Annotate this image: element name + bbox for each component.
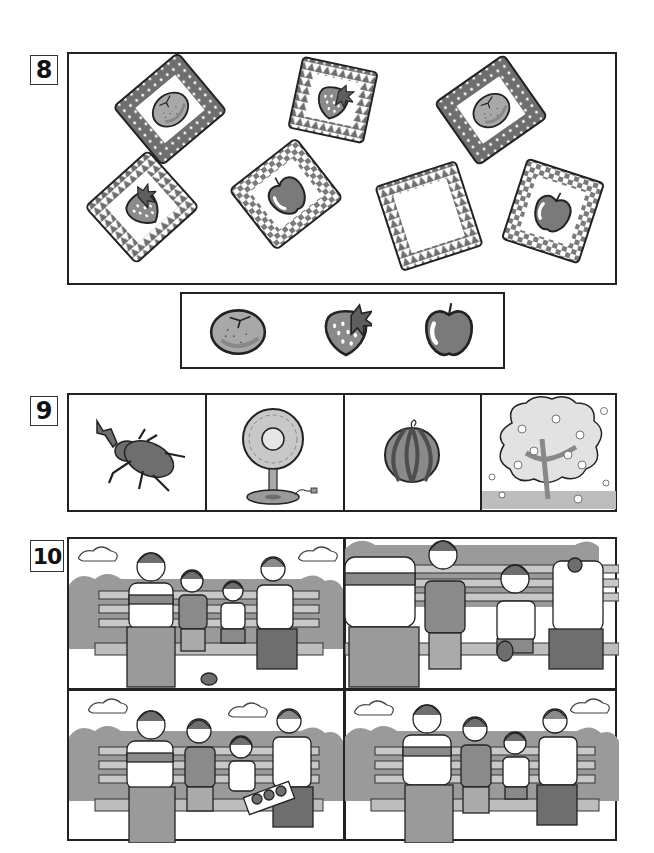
tangerine-icon: [211, 310, 265, 353]
card-tangerine-dots[interactable]: [435, 55, 547, 165]
watermelon-icon: [345, 395, 480, 509]
story-panel-top-right[interactable]: [345, 539, 619, 688]
season-items-row: [67, 393, 617, 512]
cherry-blossom-tree-icon: [482, 395, 616, 509]
item-cell-cherry-blossom[interactable]: [482, 395, 619, 510]
card-apple-checker[interactable]: [230, 138, 343, 250]
fruit-options-strip: [180, 292, 505, 369]
card-apple-checker[interactable]: [502, 159, 604, 264]
card-arrangement-panel: [67, 52, 617, 285]
option-apple[interactable]: [422, 300, 476, 360]
option-tangerine[interactable]: [207, 302, 269, 360]
question-number-10: 10: [30, 540, 64, 572]
electric-fan-icon: [207, 395, 342, 509]
card-tangerine-dots[interactable]: [113, 54, 226, 165]
rhinoceros-beetle-icon: [69, 395, 204, 509]
story-panel-bottom-left[interactable]: [69, 691, 343, 843]
apple-icon: [426, 303, 471, 354]
question-number-9: 9: [30, 396, 58, 426]
strawberry-icon: [326, 305, 372, 355]
card-strawberry-triangles[interactable]: [85, 151, 198, 264]
question-number-8: 8: [30, 55, 58, 85]
story-panel-top-left[interactable]: [69, 539, 343, 688]
story-panel-bottom-right[interactable]: [345, 691, 619, 843]
item-cell-fan[interactable]: [207, 395, 345, 510]
card-strawberry-triangles[interactable]: [288, 57, 377, 143]
item-cell-beetle[interactable]: [69, 395, 207, 510]
story-panels-grid: [67, 537, 617, 841]
item-cell-watermelon[interactable]: [345, 395, 482, 510]
option-strawberry[interactable]: [320, 300, 372, 360]
card-empty-triangles[interactable]: [375, 161, 482, 271]
